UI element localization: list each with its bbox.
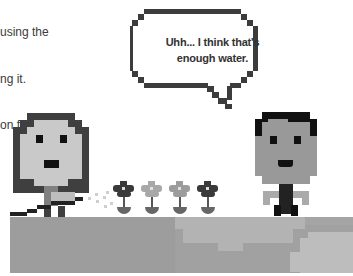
girl-right-eye (60, 135, 67, 143)
intro-line: using the (0, 25, 130, 41)
intro-line: ng it. (0, 72, 130, 88)
girl-left-eye (36, 135, 43, 143)
boy-left-eye (270, 136, 277, 144)
boy-mouth (278, 160, 293, 167)
hose (10, 212, 27, 216)
speech-bubble-text: Uhh... I think that's enough water. (150, 34, 275, 66)
boy-right-eye (294, 136, 301, 144)
girl-mouth (44, 160, 59, 168)
